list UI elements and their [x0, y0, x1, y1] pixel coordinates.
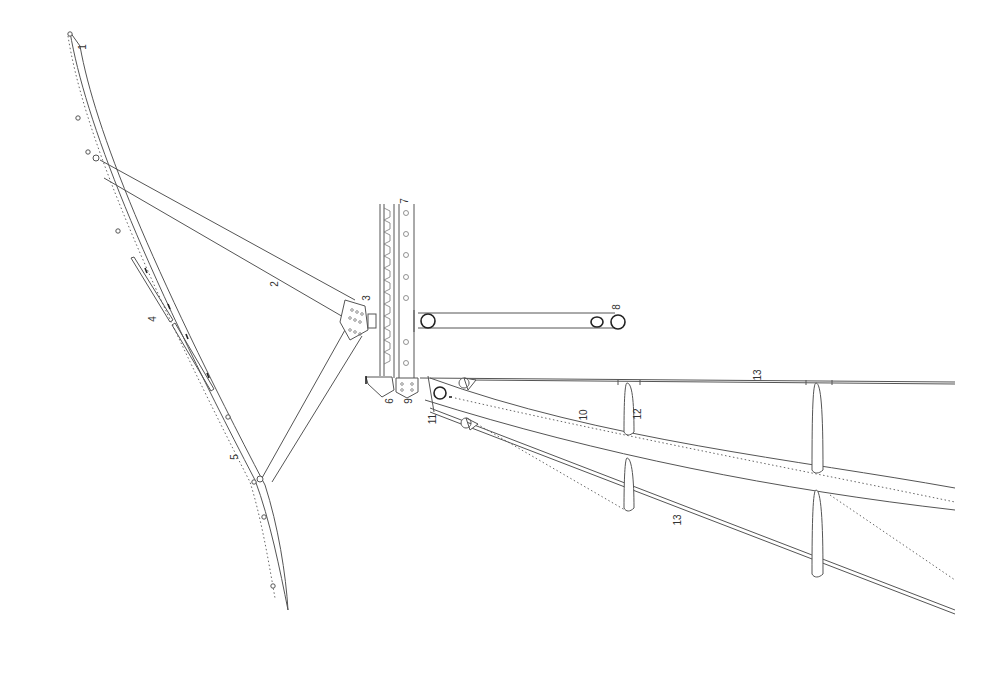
boom-assembly [420, 376, 955, 614]
label-2: 2 [270, 281, 280, 287]
label-1: 1 [78, 44, 88, 50]
label-8: 8 [612, 304, 622, 310]
label-13-lower: 13 [673, 514, 683, 525]
label-10: 10 [579, 409, 589, 420]
rack-mast [366, 204, 418, 398]
label-13-upper: 13 [753, 369, 763, 380]
label-3: 3 [362, 295, 372, 301]
label-5: 5 [230, 454, 240, 460]
label-12: 12 [633, 408, 643, 419]
label-9: 9 [404, 398, 414, 404]
arm-8 [414, 310, 625, 332]
label-7: 7 [400, 198, 410, 204]
label-4: 4 [148, 316, 158, 322]
label-11: 11 [428, 414, 438, 424]
technical-drawing [0, 0, 996, 679]
label-6: 6 [385, 398, 395, 404]
curved-spar [68, 32, 288, 610]
